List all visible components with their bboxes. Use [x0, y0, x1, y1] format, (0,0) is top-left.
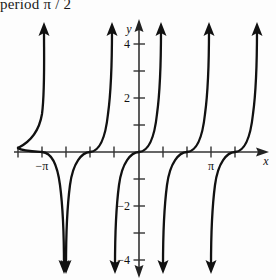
x-axis-label: x — [262, 154, 269, 168]
curve-branch-2 — [66, 30, 112, 266]
y-tick-label-minus-4: −4 — [117, 253, 130, 267]
tangent-graph: y x 4 2 −2 −4 −π π — [0, 0, 276, 280]
tangent-curves — [18, 30, 257, 266]
figure-container: period π / 2 — [0, 0, 276, 280]
x-tick-label-minus-pi: −π — [36, 159, 49, 173]
curve-branch-3 — [115, 30, 161, 266]
y-tick-label-minus-2: −2 — [117, 199, 130, 213]
x-tick-label-pi: π — [208, 159, 214, 173]
axes-group — [14, 19, 269, 278]
curve-branch-1-upper — [18, 30, 44, 148]
curve-branch-5 — [211, 30, 257, 266]
y-tick-label-2: 2 — [124, 91, 130, 105]
curve-branch-4 — [163, 30, 209, 266]
y-tick-label-4: 4 — [124, 37, 130, 51]
branch-arrowheads-up — [39, 22, 263, 36]
y-axis-label: y — [125, 22, 132, 36]
